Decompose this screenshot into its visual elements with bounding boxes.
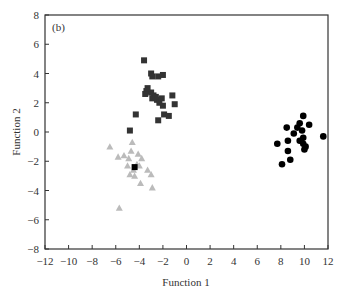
square-marker [133, 111, 139, 117]
triangle-marker [116, 205, 123, 211]
x-tick-label: −2 [157, 255, 169, 267]
triangle-marker [128, 148, 135, 154]
triangle-marker [121, 152, 128, 158]
triangle-marker [129, 139, 136, 145]
series-group-squares [127, 57, 178, 133]
circle-marker [320, 133, 327, 140]
square-marker [160, 72, 166, 78]
circle-marker [283, 124, 290, 131]
square-marker [166, 113, 172, 119]
circle-marker [287, 156, 294, 163]
y-tick-label: 0 [34, 126, 40, 138]
circle-marker [291, 130, 298, 137]
circle-marker [296, 137, 303, 144]
panel-label: (b) [52, 21, 65, 34]
series-group-triangles [106, 139, 155, 211]
y-axis-title: Function 2 [10, 108, 22, 155]
square-marker [141, 57, 147, 63]
scatter-chart: −12−10−8−6−4−2024681012−8−6−4−202468 (b)… [0, 0, 339, 293]
circle-marker [306, 121, 313, 128]
circle-marker [285, 137, 292, 144]
triangle-marker [137, 180, 144, 186]
square-marker [172, 101, 178, 107]
y-tick-label: 4 [34, 68, 40, 80]
x-tick-label: 10 [299, 255, 311, 267]
x-tick-label: −4 [133, 255, 145, 267]
data-points [106, 57, 326, 211]
circle-marker [299, 127, 306, 134]
triangle-marker [115, 153, 122, 159]
x-axis-title: Function 1 [162, 276, 209, 288]
triangle-marker [149, 184, 156, 190]
x-tick-label: 0 [184, 255, 190, 267]
circle-marker [301, 146, 308, 153]
y-tick-label: −8 [27, 243, 39, 255]
circle-marker [300, 113, 307, 120]
series-group-square-outlier [132, 164, 138, 170]
x-tick-label: 8 [278, 255, 284, 267]
x-tick-label: 4 [231, 255, 237, 267]
y-tick-label: 8 [34, 9, 40, 21]
triangle-marker [106, 143, 113, 149]
x-tick-label: −10 [60, 255, 78, 267]
square-marker [142, 91, 148, 97]
square-marker [149, 73, 155, 79]
x-tick-label: −6 [110, 255, 122, 267]
square-marker [155, 117, 161, 123]
triangle-marker [144, 167, 151, 173]
y-tick-label: −6 [27, 214, 39, 226]
x-tick-label: 2 [207, 255, 213, 267]
y-tick-label: −2 [27, 155, 39, 167]
circle-marker [274, 140, 281, 147]
triangle-marker [135, 150, 142, 156]
square-marker [160, 103, 166, 109]
x-tick-label: −12 [36, 255, 53, 267]
y-tick-label: 2 [34, 97, 40, 109]
x-tick-label: −8 [86, 255, 98, 267]
square-marker [132, 164, 138, 170]
circle-marker [285, 148, 292, 155]
y-tick-label: 6 [34, 38, 40, 50]
square-marker [159, 95, 165, 101]
triangle-marker [124, 162, 131, 168]
circle-marker [279, 161, 286, 168]
y-tick-label: −4 [27, 185, 39, 197]
square-marker [169, 92, 175, 98]
series-group-circles [274, 113, 327, 168]
x-tick-label: 12 [323, 255, 334, 267]
x-tick-label: 6 [255, 255, 261, 267]
square-marker [145, 85, 151, 91]
plot-frame [45, 15, 328, 249]
square-marker [127, 128, 133, 134]
